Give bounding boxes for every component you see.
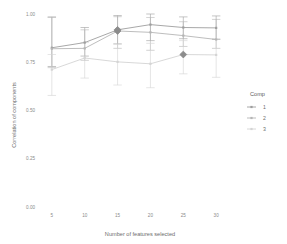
- legend-key-point: [250, 106, 252, 108]
- data-point: [149, 24, 151, 26]
- x-tick-label: 20: [148, 213, 154, 218]
- data-point: [182, 26, 184, 28]
- data-point: [51, 48, 53, 50]
- data-point: [116, 61, 118, 63]
- legend-title: Comp: [250, 91, 265, 97]
- data-point: [149, 63, 151, 65]
- x-axis-title: Number of features selected: [105, 231, 175, 237]
- data-point: [215, 38, 217, 40]
- legend-key-point: [250, 128, 252, 130]
- y-tick-label: 0.50: [26, 108, 35, 113]
- data-point: [84, 47, 86, 49]
- legend-item-label[interactable]: 2: [263, 115, 266, 121]
- x-tick-label: 5: [51, 213, 54, 218]
- legend-item-label[interactable]: 3: [263, 126, 266, 132]
- data-point: [51, 68, 53, 70]
- legend-item-label[interactable]: 1: [263, 104, 266, 110]
- y-tick-label: 0.75: [26, 60, 35, 65]
- data-point: [215, 54, 217, 56]
- legend-key-point: [250, 117, 252, 119]
- data-point: [182, 35, 184, 37]
- x-tick-label: 25: [181, 213, 187, 218]
- y-tick-label: 1.00: [26, 12, 35, 17]
- data-point: [215, 27, 217, 29]
- data-point: [149, 31, 151, 33]
- data-point: [84, 57, 86, 59]
- chart-background: [0, 0, 287, 244]
- x-tick-label: 10: [82, 213, 88, 218]
- chart-root: 0.000.250.500.751.00 51015202530 Number …: [0, 0, 287, 244]
- data-point: [84, 41, 86, 43]
- x-tick-label: 15: [115, 213, 121, 218]
- y-tick-label: 0.00: [26, 205, 35, 210]
- y-tick-label: 0.25: [26, 156, 35, 161]
- y-axis-title: Correlation of components: [11, 82, 17, 148]
- correlation-line-chart: 0.000.250.500.751.00 51015202530 Number …: [0, 0, 287, 244]
- x-tick-label: 30: [214, 213, 220, 218]
